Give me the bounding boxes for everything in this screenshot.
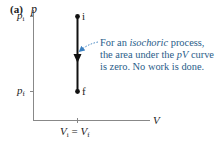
point-label-final: f (82, 86, 86, 97)
y-tick-label-pi: pi (17, 10, 24, 23)
y-axis-label: p (31, 3, 37, 15)
x-axis-label: V (153, 115, 160, 126)
x-tick-label: Vi = Vf (60, 126, 89, 139)
direction-arrow-icon (74, 54, 82, 63)
annotation-arrow-icon (81, 42, 98, 50)
annotation-text: For an isochoric process, the area under… (100, 37, 218, 73)
y-tick-label-pf: pf (17, 85, 25, 98)
point-initial (75, 14, 80, 19)
point-final (75, 89, 80, 94)
point-label-initial: i (82, 11, 85, 22)
